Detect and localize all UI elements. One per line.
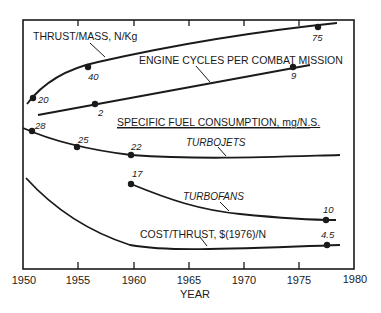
point-label: 22 — [130, 141, 142, 152]
data-point — [323, 217, 329, 223]
x-tick-label: 1965 — [177, 274, 201, 286]
turbojets-line — [23, 128, 340, 158]
turbojets-label: TURBOJETS — [186, 137, 246, 148]
data-point — [85, 64, 91, 70]
sfc-heading: SPECIFIC FUEL CONSUMPTION, mg/N.S. — [117, 116, 320, 128]
point-label: 40 — [88, 71, 99, 82]
data-point — [128, 181, 134, 187]
point-label: 25 — [77, 134, 89, 145]
point-label: 20 — [37, 94, 49, 105]
data-point — [324, 242, 330, 248]
x-axis-label: YEAR — [180, 288, 210, 300]
x-tick-label: 1950 — [12, 274, 36, 286]
x-tick-label: 1975 — [287, 274, 311, 286]
point-label: 10 — [323, 204, 334, 215]
x-tick-label: 1980 — [343, 273, 367, 285]
turbojets-pointer — [218, 147, 226, 156]
point-label: 4.5 — [321, 229, 335, 240]
cost-thrust-label: COST/THRUST, $(1976)/N — [140, 228, 266, 240]
thrust-mass-label: THRUST/MASS, N/Kg — [33, 30, 138, 42]
point-label: 2 — [97, 107, 104, 118]
chart: 1950 1955 1960 1965 1970 1975 1980 YEAR … — [0, 0, 381, 313]
point-label: 75 — [312, 32, 323, 43]
engine-cycles-label: ENGINE CYCLES PER COMBAT MISSION — [139, 54, 343, 66]
x-tick-label: 1970 — [232, 274, 256, 286]
data-point — [315, 24, 321, 30]
data-point — [128, 152, 134, 158]
data-point — [30, 95, 36, 101]
engine-cycles-pointer — [196, 66, 210, 82]
top-ticks — [78, 20, 299, 26]
thrust-mass-pointer — [90, 43, 105, 57]
point-label: 17 — [132, 168, 143, 179]
turbofans-label: TURBOFANS — [183, 191, 244, 202]
engine-cycles-line — [38, 65, 310, 115]
x-tick-label: 1955 — [66, 274, 90, 286]
bottom-ticks — [78, 262, 299, 269]
turbofans-line — [131, 184, 336, 220]
point-label: 28 — [34, 120, 46, 131]
x-tick-label: 1960 — [122, 274, 146, 286]
point-label: 9 — [291, 70, 297, 81]
turbofans-pointer — [220, 202, 229, 211]
